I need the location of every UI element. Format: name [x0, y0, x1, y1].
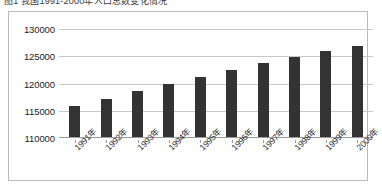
bar	[320, 51, 331, 138]
y-axis-tick-label: 120000	[24, 78, 55, 89]
bar	[226, 70, 237, 138]
y-axis-tick-label: 110000	[25, 133, 55, 144]
y-axis-tick-label: 130000	[24, 24, 55, 35]
chart-frame: 110000115000120000125000130000 1991年1992…	[8, 11, 368, 181]
bar	[195, 77, 206, 138]
y-axis-labels: 110000115000120000125000130000	[17, 29, 55, 138]
page-title: 图1 我国1991-2000年人口总数变化情况	[4, 0, 167, 7]
bar	[101, 99, 112, 138]
plot-area	[59, 29, 373, 138]
bar-series	[59, 29, 373, 138]
chart-title-strip: 图1 我国1991-2000年人口总数变化情况	[0, 0, 378, 9]
bar	[132, 91, 143, 138]
y-axis-tick-label: 125000	[24, 51, 55, 62]
x-axis-labels: 1991年1992年1993年1994年1995年1996年1997年1998年…	[59, 140, 373, 186]
bar	[289, 57, 300, 138]
y-axis-tick-label: 115000	[25, 105, 55, 116]
bar	[69, 106, 80, 138]
bar	[163, 84, 174, 139]
bar	[258, 63, 269, 138]
bar	[352, 46, 363, 138]
